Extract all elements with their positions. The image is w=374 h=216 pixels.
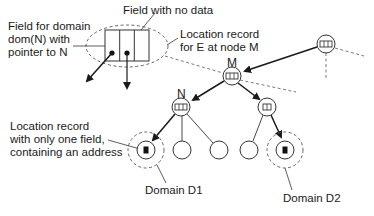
leaf-4 bbox=[240, 141, 258, 159]
leaf-2 bbox=[173, 141, 191, 159]
label-domain-d1: Domain D1 bbox=[145, 184, 203, 197]
label-field-no-data: Field with no data bbox=[123, 4, 213, 17]
magnified-record bbox=[86, 25, 168, 88]
node-root-right bbox=[317, 35, 335, 53]
leaf-d2 bbox=[276, 141, 294, 159]
label-domain-d2: Domain D2 bbox=[283, 192, 341, 205]
label-location-record: Location record for E at node M bbox=[180, 28, 259, 54]
leaf-3 bbox=[210, 141, 228, 159]
node-n-label: N bbox=[177, 87, 186, 101]
node-m-label: M bbox=[227, 56, 237, 70]
leaf-d1 bbox=[137, 141, 155, 159]
label-field-domain: Field for domain dom(N) with pointer to … bbox=[8, 20, 90, 59]
label-one-field: Location record with only one field, con… bbox=[10, 120, 123, 159]
node-m-right-child bbox=[258, 98, 276, 116]
